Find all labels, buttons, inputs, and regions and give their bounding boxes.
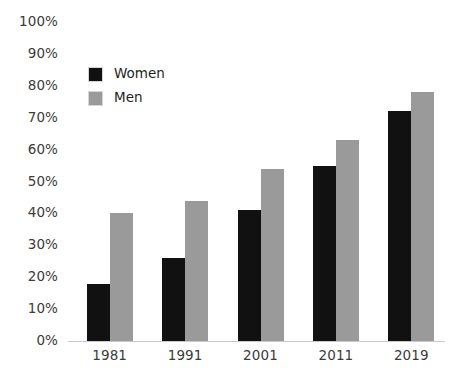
y-tick-label: 0%	[2, 334, 58, 348]
bar-men-2001	[261, 169, 284, 341]
bar-women-2011	[313, 166, 336, 341]
x-tick-label: 1991	[150, 349, 220, 363]
bar-group	[238, 22, 284, 341]
x-axis-baseline	[68, 341, 445, 342]
legend-label: Women	[114, 67, 165, 81]
bar-women-2001	[238, 210, 261, 341]
y-tick-label: 100%	[2, 15, 58, 29]
y-tick-label: 70%	[2, 111, 58, 125]
bar-men-1981	[110, 213, 133, 341]
y-tick-label: 20%	[2, 270, 58, 284]
legend-item-men[interactable]: Men	[88, 90, 143, 106]
y-tick-label: 90%	[2, 47, 58, 61]
bar-women-2019	[388, 111, 411, 341]
y-tick-label: 10%	[2, 302, 58, 316]
x-tick-label: 2019	[376, 349, 446, 363]
bar-men-1991	[185, 201, 208, 341]
bar-group	[162, 22, 208, 341]
y-tick-label: 30%	[2, 239, 58, 253]
legend-swatch-men	[88, 91, 103, 106]
y-tick-label: 60%	[2, 143, 58, 157]
x-tick-label: 2011	[301, 349, 371, 363]
legend-item-women[interactable]: Women	[88, 66, 165, 82]
bar-group	[313, 22, 359, 341]
bar-group	[388, 22, 434, 341]
bar-women-1981	[87, 284, 110, 341]
legend-label: Men	[114, 91, 143, 105]
x-tick-label: 2001	[226, 349, 296, 363]
bar-men-2019	[411, 92, 434, 341]
x-tick-label: 1981	[75, 349, 145, 363]
bar-chart: 0%10%20%30%40%50%60%70%80%90%100% 198119…	[0, 0, 461, 381]
legend-swatch-women	[88, 67, 103, 82]
y-tick-label: 80%	[2, 79, 58, 93]
y-tick-label: 50%	[2, 175, 58, 189]
y-tick-label: 40%	[2, 207, 58, 221]
bar-men-2011	[336, 140, 359, 341]
bar-women-1991	[162, 258, 185, 341]
x-axis: 19811991200120112019	[68, 344, 445, 374]
y-axis: 0%10%20%30%40%50%60%70%80%90%100%	[0, 0, 62, 381]
